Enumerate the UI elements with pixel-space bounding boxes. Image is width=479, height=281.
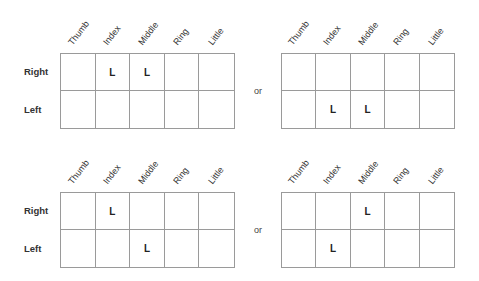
cell-right-little bbox=[199, 54, 234, 91]
grid-bottom-right: LL bbox=[281, 192, 455, 268]
column-header-index: Index bbox=[321, 162, 342, 186]
cell-right-middle: L bbox=[130, 54, 165, 91]
cell-left-thumb bbox=[282, 91, 316, 128]
column-header-little: Little bbox=[426, 165, 446, 186]
row-label-left: Left bbox=[24, 104, 41, 115]
column-header-middle: Middle bbox=[356, 159, 380, 186]
grid-top-left: LL bbox=[60, 53, 235, 129]
or-separator: or bbox=[254, 86, 262, 96]
column-header-little: Little bbox=[206, 165, 226, 186]
cell-left-thumb bbox=[282, 230, 316, 267]
cell-left-middle bbox=[130, 91, 165, 128]
column-header-little: Little bbox=[426, 26, 446, 47]
column-header-little: Little bbox=[206, 26, 226, 47]
cell-left-middle: L bbox=[351, 91, 385, 128]
column-header-ring: Ring bbox=[391, 26, 410, 47]
column-header-middle: Middle bbox=[136, 20, 160, 47]
cell-left-index: L bbox=[316, 91, 350, 128]
cell-right-little bbox=[420, 54, 454, 91]
cell-right-index: L bbox=[96, 193, 131, 230]
column-header-index: Index bbox=[321, 23, 342, 47]
cell-left-middle bbox=[351, 230, 385, 267]
cell-left-little bbox=[199, 230, 234, 267]
cell-right-index bbox=[316, 193, 350, 230]
column-header-ring: Ring bbox=[391, 165, 410, 186]
cell-left-thumb bbox=[61, 230, 96, 267]
cell-right-index bbox=[316, 54, 350, 91]
column-header-middle: Middle bbox=[356, 20, 380, 47]
row-label-left: Left bbox=[24, 243, 41, 254]
cell-left-little bbox=[420, 230, 454, 267]
cell-right-ring bbox=[165, 193, 200, 230]
or-separator: or bbox=[254, 225, 262, 235]
cell-right-little bbox=[420, 193, 454, 230]
grid-bottom-left: LL bbox=[60, 192, 235, 268]
cell-right-index: L bbox=[96, 54, 131, 91]
cell-left-ring bbox=[385, 230, 419, 267]
column-header-middle: Middle bbox=[136, 159, 160, 186]
column-header-thumb: Thumb bbox=[287, 158, 312, 186]
cell-left-index bbox=[96, 91, 131, 128]
cell-left-index: L bbox=[316, 230, 350, 267]
cell-right-thumb bbox=[61, 193, 96, 230]
row-label-right: Right bbox=[24, 205, 48, 216]
cell-left-ring bbox=[165, 91, 200, 128]
row-label-right: Right bbox=[24, 66, 48, 77]
column-header-ring: Ring bbox=[171, 26, 190, 47]
cell-right-thumb bbox=[282, 54, 316, 91]
cell-left-ring bbox=[165, 230, 200, 267]
cell-right-little bbox=[199, 193, 234, 230]
cell-right-middle: L bbox=[351, 193, 385, 230]
cell-right-middle bbox=[130, 193, 165, 230]
cell-left-little bbox=[420, 91, 454, 128]
column-header-thumb: Thumb bbox=[66, 158, 91, 186]
cell-right-middle bbox=[351, 54, 385, 91]
cell-right-ring bbox=[385, 54, 419, 91]
column-header-index: Index bbox=[101, 23, 122, 47]
cell-left-index bbox=[96, 230, 131, 267]
cell-left-little bbox=[199, 91, 234, 128]
cell-right-thumb bbox=[282, 193, 316, 230]
cell-right-ring bbox=[165, 54, 200, 91]
cell-left-thumb bbox=[61, 91, 96, 128]
cell-right-ring bbox=[385, 193, 419, 230]
cell-right-thumb bbox=[61, 54, 96, 91]
cell-left-ring bbox=[385, 91, 419, 128]
column-header-index: Index bbox=[101, 162, 122, 186]
cell-left-middle: L bbox=[130, 230, 165, 267]
column-header-ring: Ring bbox=[171, 165, 190, 186]
column-header-thumb: Thumb bbox=[66, 19, 91, 47]
grid-top-right: LL bbox=[281, 53, 455, 129]
column-header-thumb: Thumb bbox=[287, 19, 312, 47]
